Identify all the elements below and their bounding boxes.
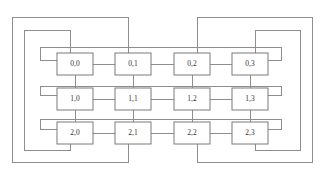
node-label-1-1: 1,1: [128, 94, 138, 103]
node-label-2-0: 2,0: [70, 128, 80, 137]
node-label-1-2: 1,2: [187, 94, 197, 103]
node-2-1[interactable]: 2,1: [115, 122, 151, 144]
node-0-1[interactable]: 0,1: [115, 53, 151, 75]
node-label-0-3: 0,3: [245, 59, 255, 68]
row-links: [93, 64, 232, 133]
node-0-2[interactable]: 0,2: [174, 53, 210, 75]
node-1-0[interactable]: 1,0: [57, 88, 93, 110]
node-1-2[interactable]: 1,2: [174, 88, 210, 110]
node-0-3[interactable]: 0,3: [232, 53, 268, 75]
node-2-3[interactable]: 2,3: [232, 122, 268, 144]
node-label-2-3: 2,3: [245, 128, 255, 137]
node-label-0-1: 0,1: [128, 59, 138, 68]
torus-diagram-canvas: 0,00,10,20,31,01,11,21,32,02,12,22,3: [0, 0, 323, 179]
node-label-1-0: 1,0: [70, 94, 80, 103]
node-2-0[interactable]: 2,0: [57, 122, 93, 144]
node-label-0-0: 0,0: [70, 59, 80, 68]
node-0-0[interactable]: 0,0: [57, 53, 93, 75]
node-2-2[interactable]: 2,2: [174, 122, 210, 144]
node-1-1[interactable]: 1,1: [115, 88, 151, 110]
torus-network-diagram: 0,00,10,20,31,01,11,21,32,02,12,22,3: [0, 0, 323, 179]
node-label-2-2: 2,2: [187, 128, 197, 137]
node-label-2-1: 2,1: [128, 128, 138, 137]
node-label-1-3: 1,3: [245, 94, 255, 103]
node-label-0-2: 0,2: [187, 59, 197, 68]
node-1-3[interactable]: 1,3: [232, 88, 268, 110]
